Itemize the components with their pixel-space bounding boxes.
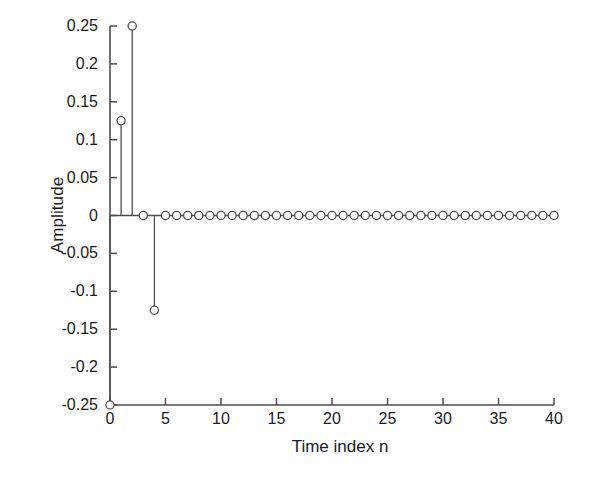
- stem-plot-figure: Amplitude Time index n 0.250.20.150.10.0…: [0, 0, 605, 480]
- data-point-marker: [372, 211, 380, 219]
- plot-canvas: [0, 0, 605, 480]
- data-point-marker: [517, 211, 525, 219]
- data-point-marker: [461, 211, 469, 219]
- data-point-marker: [306, 211, 314, 219]
- data-point-marker: [472, 211, 480, 219]
- data-point-marker: [528, 211, 536, 219]
- data-point-marker: [428, 211, 436, 219]
- data-point-marker: [450, 211, 458, 219]
- data-point-marker: [406, 211, 414, 219]
- data-point-marker: [339, 211, 347, 219]
- data-point-marker: [506, 211, 514, 219]
- data-point-marker: [106, 401, 114, 409]
- data-point-marker: [195, 211, 203, 219]
- data-point-marker: [539, 211, 547, 219]
- data-point-marker: [117, 117, 125, 125]
- data-point-marker: [150, 306, 158, 314]
- data-point-marker: [228, 211, 236, 219]
- data-point-marker: [284, 211, 292, 219]
- data-point-marker: [217, 211, 225, 219]
- data-point-marker: [206, 211, 214, 219]
- data-point-marker: [383, 211, 391, 219]
- data-point-marker: [239, 211, 247, 219]
- data-point-marker: [439, 211, 447, 219]
- data-point-markers: [106, 22, 558, 409]
- data-point-marker: [395, 211, 403, 219]
- data-point-marker: [295, 211, 303, 219]
- data-point-marker: [161, 211, 169, 219]
- data-point-marker: [184, 211, 192, 219]
- data-point-marker: [350, 211, 358, 219]
- data-point-marker: [494, 211, 502, 219]
- data-point-marker: [272, 211, 280, 219]
- data-point-marker: [128, 22, 136, 30]
- data-point-marker: [483, 211, 491, 219]
- data-point-marker: [417, 211, 425, 219]
- data-point-marker: [139, 211, 147, 219]
- data-point-marker: [361, 211, 369, 219]
- data-point-marker: [250, 211, 258, 219]
- data-point-marker: [328, 211, 336, 219]
- data-point-marker: [261, 211, 269, 219]
- data-point-marker: [173, 211, 181, 219]
- data-point-marker: [550, 211, 558, 219]
- data-point-marker: [317, 211, 325, 219]
